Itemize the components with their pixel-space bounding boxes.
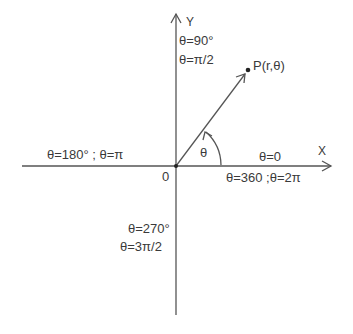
angle-270-radians-label: θ=3π/2: [120, 240, 162, 253]
angle-270-degrees-label: θ=270°: [128, 222, 170, 235]
axes-canvas: [0, 0, 353, 334]
x-axis-label: X: [318, 145, 326, 157]
point-p: [246, 68, 251, 73]
angle-90-degrees-label: θ=90°: [179, 34, 213, 47]
origin-dot: [174, 164, 178, 168]
angle-180-label: θ=180° ; θ=π: [47, 148, 123, 161]
origin-label: 0: [162, 170, 169, 183]
angle-theta-label: θ: [200, 146, 207, 159]
polar-coordinate-diagram: Y X 0 θ=90° θ=π/2 P(r,θ) θ θ=0 θ=360 ;θ=…: [0, 0, 353, 334]
angle-0-label: θ=0: [259, 150, 281, 163]
angle-360-label: θ=360 ;θ=2π: [226, 171, 301, 184]
angle-90-radians-label: θ=π/2: [179, 53, 214, 66]
radius-vector: [176, 74, 245, 166]
y-axis-label: Y: [186, 16, 194, 28]
point-p-label: P(r,θ): [253, 59, 285, 72]
angle-arc: [206, 132, 221, 165]
